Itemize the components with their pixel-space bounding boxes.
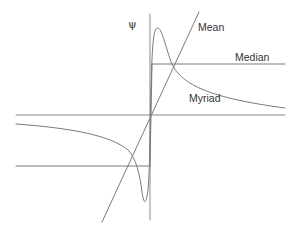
median-label: Median — [235, 51, 269, 63]
myriad-label: Myriad — [189, 92, 221, 104]
psi-function-diagram — [0, 0, 299, 235]
mean-label: Mean — [198, 21, 224, 33]
y-axis-label: ψ — [128, 18, 137, 31]
